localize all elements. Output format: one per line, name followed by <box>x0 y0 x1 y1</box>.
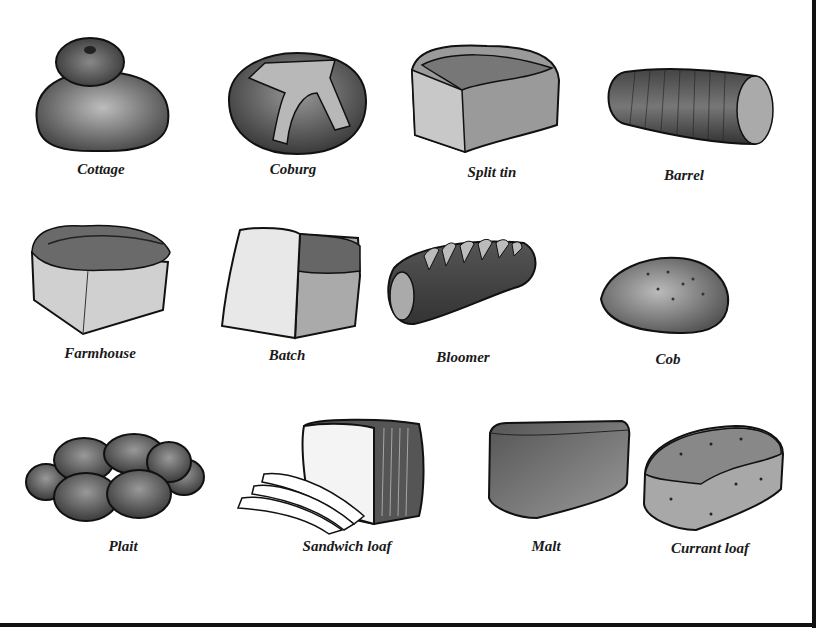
barrel-loaf-icon <box>605 64 780 149</box>
label-batch: Batch <box>269 347 306 364</box>
label-split-tin: Split tin <box>468 164 517 181</box>
coburg-loaf-icon <box>225 48 370 156</box>
label-currant-loaf: Currant loaf <box>671 540 749 557</box>
frame-border-right <box>812 0 816 628</box>
cottage-loaf-icon <box>30 32 175 157</box>
split-tin-loaf-icon <box>407 40 562 155</box>
label-bloomer: Bloomer <box>436 349 489 366</box>
frame-border-bottom <box>0 623 816 627</box>
batch-loaf-icon <box>220 226 365 338</box>
label-plait: Plait <box>108 538 137 555</box>
label-cottage: Cottage <box>77 161 125 178</box>
bloomer-loaf-icon <box>384 238 539 328</box>
plait-loaf-icon <box>24 432 206 524</box>
label-cob: Cob <box>655 351 680 368</box>
farmhouse-loaf-icon <box>28 222 173 337</box>
label-farmhouse: Farmhouse <box>64 345 136 362</box>
sandwich-loaf-icon <box>234 416 429 534</box>
label-barrel: Barrel <box>664 167 704 184</box>
cob-loaf-icon <box>598 254 733 334</box>
malt-loaf-icon <box>487 418 632 520</box>
label-sandwich-loaf: Sandwich loaf <box>303 538 392 555</box>
label-coburg: Coburg <box>270 161 317 178</box>
currant-loaf-icon <box>641 424 786 532</box>
label-malt: Malt <box>531 538 560 555</box>
